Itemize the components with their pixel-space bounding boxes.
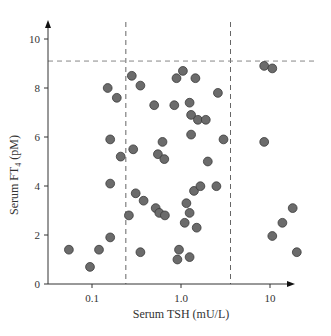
- y-axis-label-unit: (pM): [7, 135, 21, 163]
- data-point: [86, 263, 95, 272]
- data-point: [196, 182, 205, 191]
- data-point: [150, 101, 159, 110]
- y-tick-label: 6: [35, 131, 41, 143]
- x-tick-label: 0.1: [85, 292, 99, 304]
- x-axis-label: Serum TSH (mU/L): [133, 307, 229, 321]
- y-tick-label: 10: [29, 33, 41, 45]
- data-point: [194, 115, 203, 124]
- data-point: [182, 199, 191, 208]
- data-point: [179, 67, 188, 76]
- data-point: [136, 81, 145, 90]
- data-point: [139, 196, 148, 205]
- data-point: [212, 182, 221, 191]
- data-point: [124, 211, 133, 220]
- data-point: [268, 232, 277, 241]
- y-tick-label: 4: [35, 180, 41, 192]
- data-point: [131, 189, 140, 198]
- data-points: [65, 62, 302, 272]
- axes: [45, 20, 295, 287]
- data-point: [185, 98, 194, 107]
- x-ticks: 0.11.010: [85, 284, 276, 304]
- data-point: [158, 138, 167, 147]
- data-point: [173, 255, 182, 264]
- data-point: [201, 115, 210, 124]
- data-point: [175, 245, 184, 254]
- y-ticks: 0246810: [29, 33, 48, 290]
- data-point: [292, 248, 301, 257]
- y-axis-arrow-icon: [45, 20, 51, 28]
- data-point: [112, 93, 121, 102]
- data-point: [106, 233, 115, 242]
- data-point: [278, 218, 287, 227]
- data-point: [136, 248, 145, 257]
- data-point: [95, 245, 104, 254]
- data-point: [160, 155, 169, 164]
- reference-lines: [48, 22, 318, 284]
- data-point: [180, 218, 189, 227]
- data-point: [106, 135, 115, 144]
- x-tick-label: 1.0: [174, 292, 188, 304]
- data-point: [185, 209, 194, 218]
- scatter-chart: 0246810 0.11.010 Serum TSH (mU/L) Serum …: [0, 0, 331, 336]
- chart-canvas: 0246810 0.11.010 Serum TSH (mU/L) Serum …: [0, 0, 331, 336]
- data-point: [260, 62, 269, 71]
- y-tick-label: 0: [35, 278, 41, 290]
- data-point: [161, 211, 170, 220]
- data-point: [116, 152, 125, 161]
- data-point: [192, 223, 201, 232]
- data-point: [203, 157, 212, 166]
- data-point: [127, 71, 136, 80]
- y-tick-label: 8: [35, 82, 41, 94]
- data-point: [129, 145, 138, 154]
- data-point: [103, 84, 112, 93]
- data-point: [106, 179, 115, 188]
- data-point: [170, 101, 179, 110]
- y-axis-label: Serum FT4 (pM): [7, 135, 23, 215]
- data-point: [191, 74, 200, 83]
- y-tick-label: 2: [35, 229, 41, 241]
- data-point: [288, 204, 297, 213]
- x-tick-label: 10: [265, 292, 277, 304]
- data-point: [185, 253, 194, 262]
- y-axis-label-main: Serum FT: [7, 166, 21, 215]
- data-point: [219, 135, 228, 144]
- data-point: [65, 245, 74, 254]
- data-point: [214, 89, 223, 98]
- data-point: [172, 74, 181, 83]
- data-point: [268, 64, 277, 73]
- x-axis-arrow-icon: [287, 281, 295, 287]
- data-point: [187, 130, 196, 139]
- data-point: [260, 138, 269, 147]
